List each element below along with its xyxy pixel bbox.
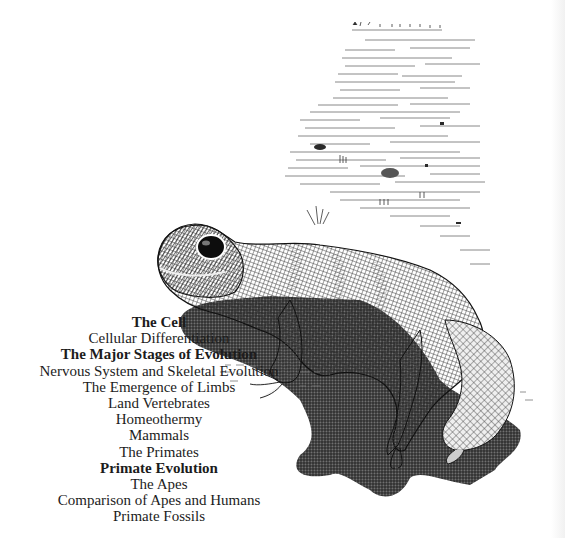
- contents-entry: Mammals: [0, 427, 318, 443]
- contents-entry: Land Vertebrates: [0, 395, 318, 411]
- contents-entry: Primate Evolution: [0, 460, 318, 476]
- contents-entry: Cellular Differentiation: [0, 330, 318, 346]
- contents-entry: The Cell: [0, 314, 318, 330]
- contents-entry: The Major Stages of Evolution: [0, 346, 318, 362]
- contents-entry: Homeothermy: [0, 411, 318, 427]
- ground-pebbles: [314, 22, 461, 224]
- contents-entry: Primate Fossils: [0, 508, 318, 524]
- contents-list: The Cell Cellular Differentiation The Ma…: [0, 314, 318, 525]
- gecko-eye: [197, 235, 225, 259]
- gecko-head: [158, 224, 244, 297]
- contents-entry: The Primates: [0, 444, 318, 460]
- contents-entry: The Emergence of Limbs: [0, 379, 318, 395]
- contents-entry: Comparison of Apes and Humans: [0, 492, 318, 508]
- contents-entry: The Apes: [0, 476, 318, 492]
- grass-tufts: [307, 155, 424, 225]
- contents-entry: Nervous System and Skeletal Evolution: [0, 363, 318, 379]
